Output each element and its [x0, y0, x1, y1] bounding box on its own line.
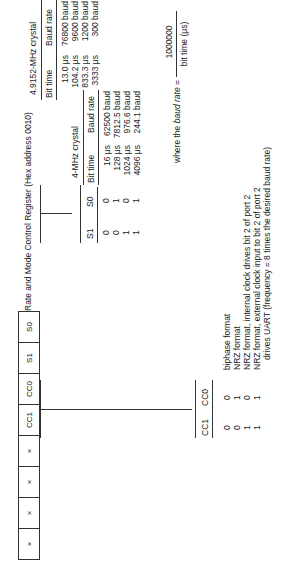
cc-header-rule — [212, 380, 213, 438]
cc-description: NRZ format, external clock input to bit … — [252, 187, 262, 370]
register-title: Rate and Mode Control Register (Hex addr… — [23, 112, 33, 311]
crystal-49152mhz-cell: 76800 baud — [60, 1, 70, 53]
s-header-rule — [97, 187, 98, 243]
crystal-49152mhz-header-baud: Baud rate — [44, 9, 54, 46]
s-cell: 0 — [101, 198, 111, 203]
s-cell: 0 — [101, 230, 111, 235]
diagram-canvas: × × × × CC1 CC0 S1 S0 Rate and Mode Cont… — [0, 0, 290, 573]
formula-equals: = — [172, 80, 182, 85]
s-cell: 1 — [121, 230, 131, 235]
crystal-49152mhz-header-rule — [56, 0, 57, 100]
cc-description: NRZ format, internal clock drives bit 2 … — [242, 195, 252, 370]
crystal-4mhz-header-baud: Baud rate — [86, 96, 96, 133]
formula-fraction-bar — [176, 11, 177, 77]
register-bit-s1: S1 — [19, 342, 39, 373]
register: × × × × CC1 CC0 S1 S0 — [18, 311, 40, 560]
crystal-4mhz-header-bit-time: Bit time — [86, 155, 96, 183]
crystal-4mhz-cell: 128 μs — [112, 145, 122, 185]
register-bit: × — [19, 497, 39, 528]
crystal-4mhz-title: 4-MHz crystal — [70, 126, 80, 178]
s-table-brace — [80, 185, 81, 243]
cc-cell: 1 — [232, 395, 242, 400]
cc-cell: 0 — [222, 395, 232, 400]
cc-description: NRZ format — [232, 326, 242, 370]
crystal-4mhz-cell: 62500 baud — [102, 91, 112, 143]
register-bit-cc0: CC0 — [19, 373, 39, 404]
cc-cell: 1 — [242, 425, 252, 430]
s-cell: 1 — [131, 198, 141, 203]
cc-header-cc1: CC1 — [200, 419, 210, 436]
crystal-4mhz-cell: 976.6 baud — [122, 91, 132, 143]
formula-term: baud rate — [172, 87, 182, 123]
crystal-4mhz-top-rule — [83, 90, 84, 185]
crystal-4mhz-cell: 1024 μs — [122, 145, 132, 185]
cc-description: biphase format — [222, 314, 232, 370]
crystal-49152mhz-header-bit-time: Bit time — [44, 70, 54, 98]
cc-description-continuation: drives UART (frequency = 8 times the des… — [262, 147, 272, 360]
s-cell: 1 — [131, 230, 141, 235]
register-bit-cc1: CC1 — [19, 404, 39, 435]
crystal-49152mhz-cell: 1200 baud — [80, 1, 90, 53]
s-cell: 0 — [111, 230, 121, 235]
register-bit-s0: S0 — [19, 312, 39, 342]
register-bit: × — [19, 435, 39, 466]
s-header-s1: S1 — [85, 229, 95, 239]
crystal-49152mhz-cell: 104.2 μs — [70, 55, 80, 100]
s-cell: 1 — [111, 198, 121, 203]
crystal-4mhz-cell: 244.1 baud — [132, 91, 142, 143]
crystal-49152mhz-cell: 300 baud — [90, 1, 100, 53]
s-brace — [40, 185, 41, 243]
crystal-49152mhz-title: 4.9152-MHz crystal — [28, 22, 38, 95]
crystal-4mhz-header-rule — [98, 90, 99, 185]
crystal-49152mhz-cell: 3333 μs — [90, 55, 100, 100]
cc-table-brace — [195, 380, 196, 438]
crystal-49152mhz-cell: 833.3 μs — [80, 55, 90, 100]
s-header-s0: S0 — [85, 197, 95, 207]
crystal-4mhz-cell: 16 μs — [102, 145, 112, 185]
cc-cell: 0 — [222, 425, 232, 430]
crystal-49152mhz-top-rule — [41, 0, 42, 100]
formula-denominator: bit time (μs) — [179, 11, 189, 77]
crystal-49152mhz-cell: 13.0 μs — [60, 55, 70, 100]
crystal-49152mhz-cell: 9600 baud — [70, 1, 80, 53]
cc-cell: 0 — [232, 425, 242, 430]
s-arrow — [40, 213, 72, 214]
formula-prefix: where the — [172, 126, 182, 163]
register-bit: × — [19, 528, 39, 559]
crystal-4mhz-cell: 4096 μs — [132, 145, 142, 185]
s-cell: 0 — [121, 198, 131, 203]
formula-lhs: where the baud rate = — [172, 80, 182, 163]
cc-header-cc0: CC0 — [200, 389, 210, 406]
register-bit: × — [19, 466, 39, 497]
formula-numerator: 1000000 — [164, 11, 174, 73]
cc-cell: 1 — [252, 395, 262, 400]
cc-cell: 1 — [252, 425, 262, 430]
cc-cell: 0 — [242, 395, 252, 400]
cc-arrow — [40, 409, 192, 410]
crystal-4mhz-cell: 7812.5 baud — [112, 91, 122, 143]
